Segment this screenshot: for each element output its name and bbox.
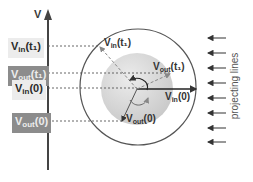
vector-label-vout-t1: Vout(t₁) [153, 62, 185, 75]
label-sub: out [160, 66, 171, 73]
label-vout-0: Vout(0) [12, 113, 51, 133]
label-arg: (0) [144, 113, 156, 124]
label-arg: (t₁) [31, 68, 47, 80]
label-sub: out [22, 120, 34, 129]
v-axis-arrow-icon [44, 9, 52, 20]
label-arg: (t₁) [25, 40, 41, 52]
label-vin-0: Vin(0) [12, 80, 46, 100]
projecting-lines-label: projecting lines [229, 51, 240, 121]
vector-label-vin-0: Vin(0) [165, 92, 190, 105]
projecting-arrows [208, 38, 226, 142]
label-vin-t1: Vin(t₁) [8, 38, 44, 58]
v-axis-label: V [34, 8, 41, 20]
label-base: V [104, 37, 111, 48]
label-arg: (0) [29, 82, 42, 94]
vector-label-vout-0: Vout(0) [126, 114, 156, 127]
label-arg: (0) [35, 115, 48, 127]
label-base: V [165, 91, 172, 102]
label-arg: (0) [178, 91, 190, 102]
label-sub: out [133, 118, 144, 125]
label-base: V [153, 61, 160, 72]
label-arg: (t₁) [117, 37, 131, 48]
label-base: V [126, 113, 133, 124]
label-arg: (t₁) [171, 61, 185, 72]
vector-label-vin-t1: Vin(t₁) [104, 38, 131, 51]
